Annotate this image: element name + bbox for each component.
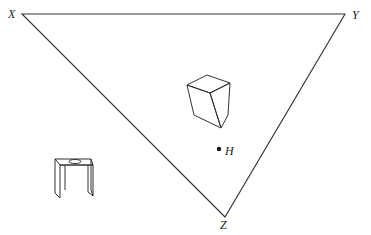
- triangle-xyz: [22, 14, 345, 217]
- diagram-canvas: [0, 0, 371, 235]
- vertex-label-x: X: [8, 8, 15, 20]
- table-stand-icon: [55, 159, 93, 198]
- vertex-label-y: Y: [352, 9, 359, 21]
- cube-icon: [187, 75, 230, 128]
- vertex-label-z: Z: [220, 219, 227, 231]
- point-label-h: H: [225, 145, 234, 157]
- point-h: [217, 147, 221, 151]
